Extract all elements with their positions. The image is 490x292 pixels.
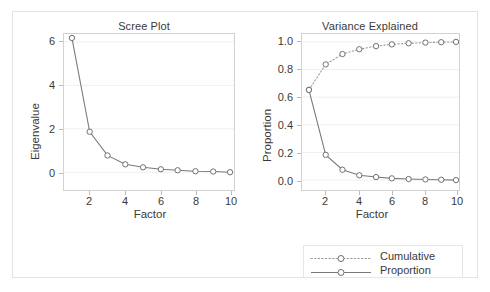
variance-x-axis-title: Factor [285, 208, 459, 220]
scree-y-tick-mark-6 [59, 41, 63, 42]
scree-y-tick-mark-2 [59, 129, 63, 130]
figure-container: Scree Plot Eigenvalue Factor [12, 11, 478, 278]
scree-plot-panel: Scree Plot Eigenvalue Factor [13, 12, 249, 279]
scree-x-tick-label-2: 2 [86, 195, 92, 207]
scree-plot-title: Scree Plot [13, 20, 249, 32]
variance-y-tick-mark-0-4 [297, 125, 301, 126]
scree-y-tick-mark-0 [59, 173, 63, 174]
variance-explained-panel: Variance Explained Proportion Factor [249, 12, 477, 279]
variance-x-tick-label-8: 8 [422, 195, 428, 207]
variance-x-tick-label-2: 2 [322, 195, 328, 207]
variance-plot-title: Variance Explained [249, 20, 477, 32]
variance-plot-area [301, 33, 460, 191]
variance-cumulative-series [306, 39, 458, 92]
legend-swatch-proportion-solid-line [310, 264, 372, 275]
scree-y-tick-label-0: 0 [39, 167, 55, 179]
variance-y-tick-mark-1-0 [297, 41, 301, 42]
scree-y-tick-label-4: 4 [39, 79, 55, 91]
variance-y-tick-mark-0-2 [297, 153, 301, 154]
scree-y-tick-label-6: 6 [39, 35, 55, 47]
scree-plot-svg [64, 34, 234, 190]
scree-x-axis-title: Factor [63, 208, 237, 220]
variance-x-tick-label-6: 6 [389, 195, 395, 207]
variance-y-tick-label-0-8: 0.8 [267, 63, 293, 75]
variance-y-tick-mark-0-0 [297, 181, 301, 182]
variance-y-tick-mark-0-8 [297, 69, 301, 70]
scree-x-tick-label-10: 10 [225, 195, 237, 207]
scree-y-tick-label-2: 2 [39, 123, 55, 135]
variance-y-tick-label-0-4: 0.4 [267, 119, 293, 131]
variance-y-tick-label-0-6: 0.6 [267, 91, 293, 103]
scree-x-tick-label-4: 4 [122, 195, 128, 207]
legend-item-cumulative[interactable]: Cumulative [310, 249, 462, 262]
scree-x-tick-label-6: 6 [158, 195, 164, 207]
scree-gridlines [64, 42, 234, 172]
variance-y-tick-mark-0-6 [297, 97, 301, 98]
scree-plot-area [63, 33, 235, 191]
legend-swatch-cumulative-dotted-line [310, 250, 372, 261]
legend-item-proportion[interactable]: Proportion [310, 263, 462, 276]
chart-legend: Cumulative Proportion [303, 245, 463, 278]
variance-y-tick-label-1-0: 1.0 [267, 35, 293, 47]
scree-y-tick-mark-4 [59, 85, 63, 86]
variance-x-tick-label-10: 10 [451, 195, 463, 207]
variance-plot-svg [302, 34, 459, 190]
scree-x-tick-label-8: 8 [193, 195, 199, 207]
variance-proportion-series [306, 87, 458, 183]
variance-y-tick-label-0-0: 0.0 [267, 175, 293, 187]
scree-eigenvalue-series [69, 35, 232, 175]
variance-y-tick-label-0-2: 0.2 [267, 147, 293, 159]
legend-label-cumulative: Cumulative [380, 250, 435, 262]
legend-label-proportion: Proportion [380, 264, 431, 276]
variance-x-tick-label-4: 4 [356, 195, 362, 207]
